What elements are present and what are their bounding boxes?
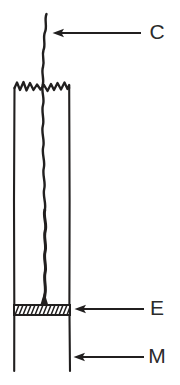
callout-e: E	[75, 296, 165, 319]
crack-root-wedge	[40, 292, 49, 306]
crack-mid-segment	[42, 85, 45, 210]
right-wall-line	[69, 88, 70, 371]
label-e: E	[150, 296, 164, 319]
left-wall-line	[14, 88, 15, 371]
crack-upper-segment	[42, 14, 46, 85]
crack-diagram-figure: C E M	[0, 0, 180, 385]
diagram-canvas: C E M	[0, 0, 180, 385]
label-c: C	[149, 20, 164, 43]
epoxy-band	[14, 305, 70, 315]
callout-m: M	[74, 344, 166, 367]
crack-lower-segment	[44, 210, 46, 305]
crack-path-group	[40, 14, 49, 306]
callout-c: C	[53, 20, 165, 43]
label-m: M	[148, 344, 166, 367]
